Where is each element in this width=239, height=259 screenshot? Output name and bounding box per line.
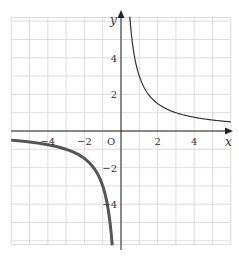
x-tick-label: −4 bbox=[40, 136, 55, 147]
x-axis-label: x bbox=[225, 135, 232, 149]
y-axis-label: y bbox=[109, 13, 117, 27]
x-tick-label: 4 bbox=[191, 136, 197, 147]
x-tick-label: −2 bbox=[77, 136, 92, 147]
function-plot: −4−22442−2−4 x y O bbox=[0, 0, 239, 259]
y-axis-arrow-icon bbox=[118, 10, 125, 18]
y-tick-label: −4 bbox=[102, 199, 117, 210]
y-tick-label: 4 bbox=[111, 53, 117, 64]
x-axis-arrow-icon bbox=[225, 128, 233, 135]
x-tick-label: 2 bbox=[154, 136, 160, 147]
curve-positive-branch bbox=[130, 17, 231, 122]
y-tick-label: −2 bbox=[102, 163, 117, 174]
curve-negative-branch bbox=[11, 140, 112, 245]
axes bbox=[11, 10, 233, 250]
origin-label: O bbox=[107, 136, 115, 147]
y-tick-label: 2 bbox=[111, 89, 117, 100]
